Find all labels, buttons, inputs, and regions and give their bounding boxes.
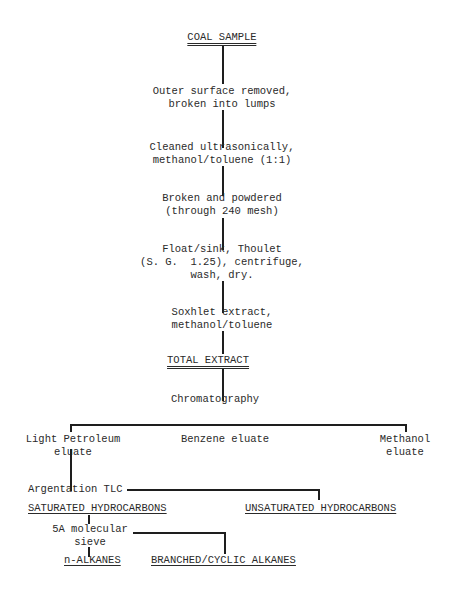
step-line: (S. G. 1.25), centrifuge, — [140, 256, 304, 268]
benzene-eluate: Benzene eluate — [181, 433, 269, 446]
chromatography-label: Chromatography — [171, 393, 259, 406]
sieve-line: sieve — [74, 536, 106, 548]
sieve-line: 5A molecular — [52, 523, 128, 535]
connector-line — [224, 532, 226, 554]
argentation-tlc-label: Argentation TLC — [28, 483, 123, 496]
step-line: wash, dry. — [190, 269, 253, 281]
connector-line — [70, 424, 72, 432]
connector-line — [405, 424, 407, 432]
branch-line — [70, 424, 406, 426]
light-petroleum-eluate: Light Petroleum eluate — [26, 433, 121, 459]
branched-cyclic-alkanes-node: BRANCHED/CYCLIC ALKANES — [151, 554, 296, 567]
step-line: Soxhlet extract, — [172, 306, 273, 318]
connector-line — [318, 489, 320, 500]
step-soxhlet: Soxhlet extract, methanol/toluene — [172, 306, 273, 332]
step-line: Cleaned ultrasonically, — [150, 141, 295, 153]
step-line: broken into lumps — [168, 98, 275, 110]
step-powdered: Broken and powdered (through 240 mesh) — [162, 192, 282, 218]
eluate-line: eluate — [54, 446, 92, 458]
step-line: methanol/toluene (1:1) — [153, 154, 292, 166]
eluate-line: eluate — [386, 446, 424, 458]
coal-sample-node: COAL SAMPLE — [187, 31, 256, 46]
unsaturated-hydrocarbons-node: UNSATURATED HYDROCARBONS — [245, 502, 396, 515]
step-line: Broken and powdered — [162, 192, 282, 204]
connector-line — [222, 46, 224, 84]
branch-line — [133, 532, 225, 534]
step-outer-surface: Outer surface removed, broken into lumps — [153, 85, 292, 111]
step-line: (through 240 mesh) — [165, 205, 278, 217]
eluate-line: Methanol — [380, 433, 430, 445]
molecular-sieve-label: 5A molecular sieve — [52, 523, 128, 549]
branch-line — [127, 489, 319, 491]
methanol-eluate: Methanol eluate — [380, 433, 430, 459]
step-line: methanol/toluene — [172, 319, 273, 331]
n-alkanes-node: n-ALKANES — [64, 554, 121, 567]
total-extract-node: TOTAL EXTRACT — [167, 354, 249, 369]
step-float-sink: Float/sink, Thoulet (S. G. 1.25), centri… — [140, 243, 304, 282]
step-line: Float/sink, Thoulet — [162, 243, 282, 255]
step-cleaned: Cleaned ultrasonically, methanol/toluene… — [150, 141, 295, 167]
saturated-hydrocarbons-node: SATURATED HYDROCARBONS — [28, 502, 167, 515]
step-line: Outer surface removed, — [153, 85, 292, 97]
eluate-line: Light Petroleum — [26, 433, 121, 445]
